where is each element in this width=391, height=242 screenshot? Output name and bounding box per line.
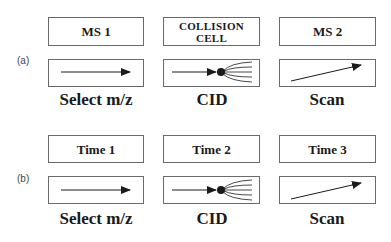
diagram-icons bbox=[0, 0, 391, 242]
fragmentation-icon bbox=[172, 180, 252, 200]
fragmentation-icon bbox=[172, 62, 252, 82]
scan-arrow-icon bbox=[291, 183, 361, 199]
scan-arrow-icon bbox=[291, 65, 361, 81]
